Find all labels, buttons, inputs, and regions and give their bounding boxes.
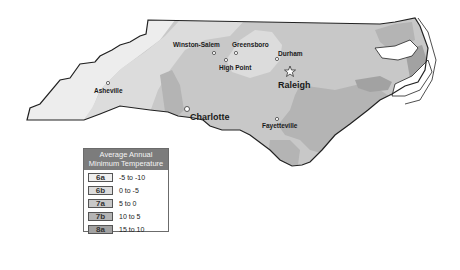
city-label-durham: Durham [278,50,303,57]
legend-swatch-6a: 6a [88,173,113,182]
city-label-charlotte: Charlotte [190,112,230,122]
durham-marker[interactable] [275,57,278,60]
charlotte-marker[interactable] [185,107,190,112]
legend-item-7b: 7b 10 to 5 [84,211,168,223]
high-point-marker[interactable] [224,58,227,61]
asheville-marker[interactable] [106,81,109,84]
legend-item-7a: 7a 5 to 0 [84,198,168,210]
legend: Average Annual Minimum Temperature 6a -5… [83,148,169,232]
greensboro-marker[interactable] [234,51,237,54]
city-label-fayetteville: Fayetteville [262,122,298,130]
legend-title-line2: Minimum Temperature [85,160,167,169]
legend-range-7a: 5 to 0 [119,200,137,207]
fayetteville-marker[interactable] [275,117,278,120]
legend-item-6a: 6a -5 to -10 [84,172,168,184]
nc-hardiness-zone-map: Winston-Salem Greensboro High Point Durh… [0,0,460,270]
legend-swatch-7b: 7b [88,212,113,221]
legend-range-6b: 0 to -5 [119,187,139,194]
city-label-winston-salem: Winston-Salem [173,41,220,48]
winston-salem-marker[interactable] [212,51,215,54]
legend-range-7b: 10 to 5 [119,213,140,220]
city-label-high-point: High Point [219,64,252,72]
legend-item-8a: 8a 15 to 10 [84,224,168,236]
legend-range-6a: -5 to -10 [119,174,145,181]
legend-swatch-7a: 7a [88,199,113,208]
legend-swatch-6b: 6b [88,186,113,195]
legend-title: Average Annual Minimum Temperature [84,149,168,170]
legend-swatch-8a: 8a [88,225,113,234]
city-label-asheville: Asheville [94,87,123,94]
city-label-raleigh: Raleigh [278,80,311,90]
legend-item-6b: 6b 0 to -5 [84,185,168,197]
city-label-greensboro: Greensboro [232,41,269,48]
legend-range-8a: 15 to 10 [119,226,144,233]
